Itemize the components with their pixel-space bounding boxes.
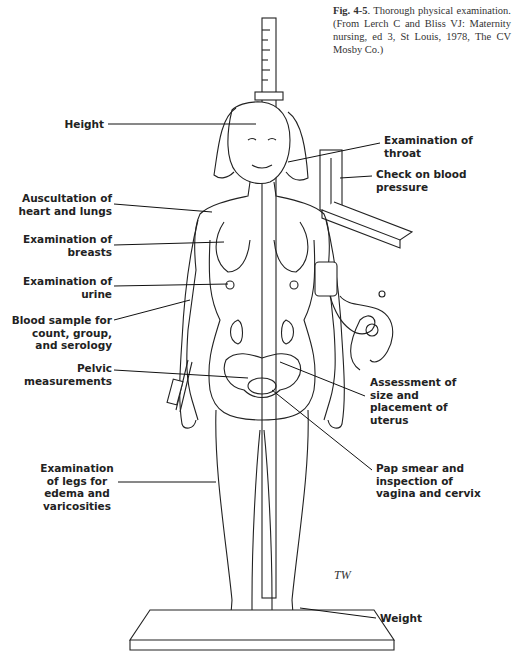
figure-number: Fig. 4-5 [333,5,368,16]
artist-signature: TW [334,568,351,583]
label-blood-pressure: Check on blood pressure [376,168,488,193]
label-pap-smear: Pap smear and inspection of vagina and c… [376,462,494,500]
label-weight: Weight [380,612,460,625]
label-blood-sample: Blood sample for count, group, and serol… [8,314,112,352]
label-auscultation: Auscultation of heart and lungs [8,192,112,217]
label-uterus: Assessment of size and placement of uter… [370,376,470,426]
label-legs: Examination of legs for edema and varico… [34,462,120,512]
label-throat: Examination of throat [384,134,496,159]
label-breasts: Examination of breasts [8,233,112,258]
label-urine: Examination of urine [8,275,112,300]
label-pelvic: Pelvic measurements [8,362,112,387]
figure-caption: Fig. 4-5. Thorough physical examination.… [333,4,511,56]
label-height: Height [30,118,104,131]
